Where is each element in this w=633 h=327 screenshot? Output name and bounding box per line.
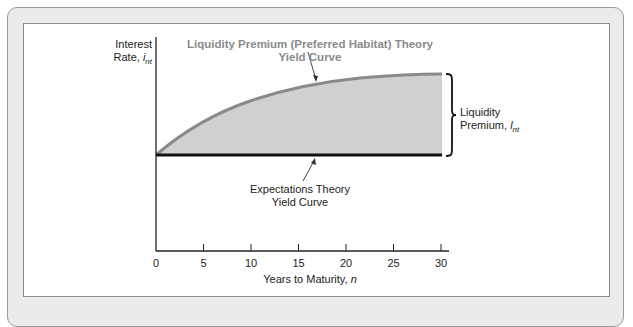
x-tick-label: 25	[384, 257, 404, 269]
expectations-arrow	[303, 158, 316, 181]
x-tick-label: 0	[146, 257, 166, 269]
x-ticks	[204, 244, 442, 251]
liquidity-premium-brace	[446, 74, 456, 156]
lp-curve-label: Liquidity Premium (Preferred Habitat) Th…	[180, 38, 440, 64]
expectations-curve-label: Expectations Theory Yield Curve	[230, 183, 370, 209]
x-tick-label: 20	[336, 257, 356, 269]
x-axis-label: Years to Maturity, n	[230, 273, 390, 286]
y-axis-label: Interest Rate, int	[98, 38, 152, 68]
x-tick-label: 10	[241, 257, 261, 269]
x-tick-label: 5	[194, 257, 214, 269]
x-tick-label: 15	[289, 257, 309, 269]
x-tick-label: 30	[431, 257, 451, 269]
liquidity-premium-label: Liquidity Premium, lnt	[460, 106, 519, 136]
